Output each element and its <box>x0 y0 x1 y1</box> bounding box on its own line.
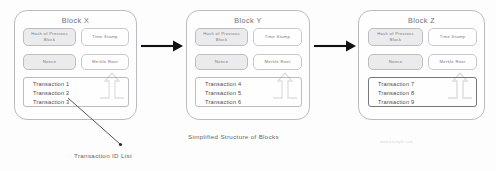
block-z-title: Block Z <box>359 16 484 25</box>
block-z-nonce: Nonce <box>368 54 423 70</box>
transaction-item: Transaction 4 <box>205 80 301 89</box>
block-x-time-stamp: Time Stamp <box>81 28 129 46</box>
transaction-item: Transaction 8 <box>378 89 476 98</box>
block-z: Block Z Hash of Previous Block Time Stam… <box>358 10 485 120</box>
watermark: www.example.com <box>380 140 413 144</box>
block-y-transaction-list: Transaction 4 Transaction 5 Transaction … <box>195 77 302 107</box>
transaction-id-list-label: Transaction ID List <box>74 152 132 159</box>
block-y-time-stamp: Time Stamp <box>253 28 302 46</box>
block-y: Block Y Hash of Previous Block Time Stam… <box>186 10 310 120</box>
block-x-title: Block X <box>15 16 136 25</box>
transaction-item: Transaction 9 <box>378 98 476 107</box>
block-z-merkle-root: Merkle Root <box>428 54 477 70</box>
block-y-merkle-root: Merkle Root <box>253 54 302 70</box>
blockchain-structure-diagram: Block X Hash of Previous Block Time Stam… <box>0 0 496 171</box>
block-z-time-stamp: Time Stamp <box>428 28 477 46</box>
block-y-nonce: Nonce <box>195 54 248 70</box>
transaction-item: Transaction 7 <box>378 80 476 89</box>
figure-caption: Simplified Structure of Blocks <box>188 133 279 140</box>
block-z-hash-of-previous-block: Hash of Previous Block <box>368 28 423 46</box>
block-y-title: Block Y <box>187 16 309 25</box>
transaction-id-list-leader-line <box>60 96 132 148</box>
transaction-item: Transaction 1 <box>33 80 128 89</box>
block-x-nonce: Nonce <box>23 54 76 70</box>
arrow-block-x-to-block-y <box>141 38 183 54</box>
block-x-hash-of-previous-block: Hash of Previous Block <box>23 28 76 46</box>
block-x-merkle-root: Merkle Root <box>81 54 129 70</box>
arrow-block-y-to-block-z <box>314 38 356 54</box>
transaction-item: Transaction 5 <box>205 89 301 98</box>
block-y-hash-of-previous-block: Hash of Previous Block <box>195 28 248 46</box>
transaction-item: Transaction 6 <box>205 98 301 107</box>
block-z-transaction-list: Transaction 7 Transaction 8 Transaction … <box>368 77 477 107</box>
